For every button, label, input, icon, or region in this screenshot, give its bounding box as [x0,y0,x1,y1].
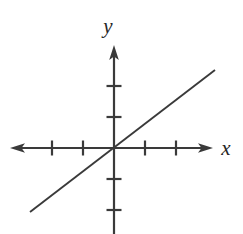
x-axis-label: x [220,136,231,160]
coordinate-svg: y x [0,0,243,234]
coordinate-plane-figure: y x [0,0,243,234]
plotted-line [30,70,215,212]
y-axis-label: y [101,14,113,38]
